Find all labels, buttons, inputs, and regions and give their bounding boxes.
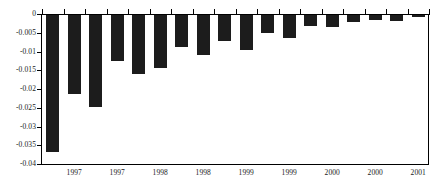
bar: [261, 15, 274, 33]
y-axis-tick-label: -0.01: [20, 48, 36, 56]
y-axis-tick-label: -0.025: [16, 104, 36, 112]
x-axis-tick: [343, 9, 344, 14]
bar: [197, 15, 210, 55]
x-axis-tick: [300, 9, 301, 14]
y-axis-tick-label: -0.005: [16, 29, 36, 37]
y-axis-tick-label: -0.03: [20, 123, 36, 131]
y-axis-tick-label: -0.04: [20, 160, 36, 168]
bar: [369, 15, 382, 20]
bar: [412, 15, 425, 17]
x-axis-tick: [128, 9, 129, 14]
x-axis-tick: [171, 9, 172, 14]
x-axis-tick: [214, 9, 215, 14]
bar: [89, 15, 102, 107]
x-axis-tick-label: 1999: [239, 168, 254, 177]
x-axis-ticks: [42, 9, 429, 15]
x-axis-tick-labels: 199719971998199819991999200020002001: [41, 168, 430, 188]
y-axis-tick-label: -0.035: [16, 142, 36, 150]
bar-chart: 0-0.005-0.01-0.015-0.02-0.025-0.03-0.035…: [0, 0, 438, 192]
bar: [132, 15, 145, 74]
x-axis-tick: [107, 9, 108, 14]
bar: [111, 15, 124, 61]
x-axis-tick: [64, 9, 65, 14]
y-axis-tick-label: -0.015: [16, 67, 36, 75]
x-axis-tick: [42, 9, 43, 14]
x-axis-tick-label: 1997: [67, 168, 82, 177]
bar: [240, 15, 253, 50]
x-axis-tick-label: 2001: [411, 168, 426, 177]
bar: [283, 15, 296, 38]
x-axis-tick-label: 1998: [196, 168, 211, 177]
x-axis-tick: [279, 9, 280, 14]
bars-layer: [42, 15, 429, 165]
x-axis-tick: [85, 9, 86, 14]
y-axis-tick-label: -0.02: [20, 85, 36, 93]
bar: [175, 15, 188, 47]
x-axis-tick: [236, 9, 237, 14]
bar: [46, 15, 59, 152]
x-axis-tick: [257, 9, 258, 14]
x-axis-tick: [322, 9, 323, 14]
bar: [304, 15, 317, 26]
x-axis-tick: [386, 9, 387, 14]
x-axis-tick: [429, 9, 430, 14]
x-axis-tick-label: 2000: [325, 168, 340, 177]
x-axis-tick: [150, 9, 151, 14]
bar: [154, 15, 167, 68]
x-axis-tick-label: 1999: [282, 168, 297, 177]
y-axis-tick-labels: 0-0.005-0.01-0.015-0.02-0.025-0.03-0.035…: [0, 0, 40, 192]
bar: [326, 15, 339, 27]
x-axis-tick: [193, 9, 194, 14]
x-axis-tick-label: 1998: [153, 168, 168, 177]
bar: [347, 15, 360, 22]
bar: [68, 15, 81, 94]
bar: [218, 15, 231, 41]
x-axis-tick-label: 1997: [110, 168, 125, 177]
bar: [390, 15, 403, 21]
x-axis-tick-label: 2000: [368, 168, 383, 177]
x-axis-tick: [408, 9, 409, 14]
x-axis-tick: [365, 9, 366, 14]
y-axis-tick-label: 0: [32, 10, 36, 18]
